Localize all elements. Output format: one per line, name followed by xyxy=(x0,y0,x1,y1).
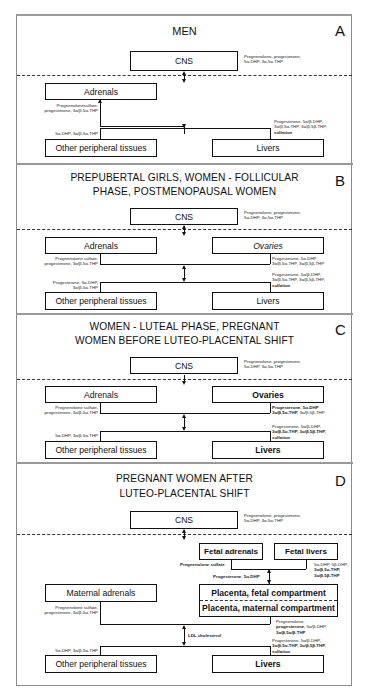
arrow-up-icon xyxy=(182,414,186,418)
arrow-up-icon xyxy=(98,99,102,103)
peripheral-tissues-box: Other peripheral tissues xyxy=(45,655,157,673)
connector xyxy=(270,403,271,413)
panel-a-title: MEN xyxy=(16,25,353,38)
livers-note: Progesterone, 5α/β-DHP,3α/β,5α-THP, 3α/β… xyxy=(274,119,327,135)
livers-note: Progesterone, 5α/β-DHP, 3α/β,5α-THP, 3α/… xyxy=(272,424,326,440)
panel-a-letter: A xyxy=(335,22,355,39)
arrow-up-icon xyxy=(182,71,186,75)
livers-note: Progesterone, 5α/β-DHP, 3α/β,5α-THP, 3α/… xyxy=(272,638,326,654)
placenta-box: Placenta, fetal compartment Placenta, ma… xyxy=(199,584,338,617)
connector xyxy=(100,128,270,129)
connector xyxy=(100,646,270,647)
panel-divider xyxy=(16,313,353,315)
peripheral-note: 5α-DHP, 3α/β,5α-THP xyxy=(36,648,98,653)
panel-b-letter: B xyxy=(335,172,355,189)
fetal-adrenals-note: Pregnenolone sulfate xyxy=(180,562,225,567)
cns-note: Pregnenolone, progesterone,5α-DHP, 3α,5α… xyxy=(244,513,301,524)
connector xyxy=(100,126,184,127)
placenta-maternal-compartment: Placenta, maternal compartment xyxy=(200,603,337,613)
arrow-down-icon xyxy=(182,381,186,385)
cns-note: Pregnenolone, progesterone,5α-DHP, 3α,5α… xyxy=(244,210,301,221)
adrenals-box: Adrenals xyxy=(45,237,157,254)
connector xyxy=(100,431,101,441)
livers-box: Livers xyxy=(212,441,324,459)
connector xyxy=(100,431,270,432)
arrow-up-icon xyxy=(267,569,271,573)
adrenals-note: Pregnenolone sulfate,progesterone, 3α/β,… xyxy=(36,405,98,416)
maternal-adrenals-box: Maternal adrenals xyxy=(45,584,157,602)
adrenals-box: Adrenals xyxy=(45,83,157,100)
cns-box: CNS xyxy=(130,51,238,71)
connector xyxy=(100,403,101,413)
connector xyxy=(270,128,271,139)
panel-b-title-line1: PREPUBERTAL GIRLS, WOMEN - FOLLICULAR xyxy=(16,171,353,184)
peripheral-tissues-box: Other peripheral tissues xyxy=(45,292,157,310)
connector xyxy=(100,602,101,624)
ovaries-note: Progesterone, 5α-DHP3α/β,5α-THP, 3α/β,5β… xyxy=(272,256,324,267)
livers-box: Livers xyxy=(212,139,324,157)
adrenals-box: Adrenals xyxy=(45,386,157,403)
arrow-down-icon xyxy=(182,536,186,540)
arrow-up-icon xyxy=(182,225,186,229)
ovaries-box: Ovaries xyxy=(212,237,324,254)
adrenals-note: Pregnenolonesulfate,progesterone, 3α/β,5… xyxy=(36,103,98,114)
livers-box: Livers xyxy=(212,655,324,673)
ldl-cholesterol-note: LDL cholesterol xyxy=(188,633,221,638)
arrow-up-icon xyxy=(182,529,186,533)
cns-box: CNS xyxy=(130,511,238,529)
arrow-down-icon xyxy=(182,232,186,236)
livers-note: Progesterone, 5α/β-DHP,3α/β,5α-THP, 3α/β… xyxy=(272,272,325,288)
panel-divider xyxy=(16,462,353,464)
arrow-down-icon xyxy=(182,79,186,83)
ovaries-note: Progesterone, 5α-DHP 3α/β,5α-THP, 3α/β,5… xyxy=(272,405,325,416)
connector xyxy=(270,431,271,441)
fetal-to-placenta-note: Progesterone, 5α-DHP xyxy=(213,574,260,579)
panel-b-title-line2: PHASE, POSTMENOPAUSAL WOMEN xyxy=(16,185,353,198)
peripheral-tissues-box: Other peripheral tissues xyxy=(45,441,157,459)
peripheral-note: Progesterone, 5α-DHP,3α/β,5α-THP xyxy=(36,280,98,291)
connector xyxy=(231,560,232,569)
placenta-divider xyxy=(200,600,337,601)
connector xyxy=(306,560,307,569)
connector xyxy=(270,646,271,655)
cns-note: Pregnenolone, progesterone,5α-DHP, 3α,5α… xyxy=(244,359,301,370)
arrow-up-icon xyxy=(182,625,186,629)
peripheral-note: 5α-DHP, 3α/β,5α-THP xyxy=(36,131,98,136)
connector xyxy=(100,646,101,655)
cns-note: Pregnenolone, progesterone,5α-DHP, 3α,5α… xyxy=(244,54,301,65)
connector xyxy=(270,617,271,624)
connector xyxy=(270,254,271,264)
panel-d-title-line2: LUTEO-PLACENTAL SHIFT xyxy=(16,487,353,500)
arrow-up-icon xyxy=(182,265,186,269)
maternal-adrenals-note: Pregnenolone sulfate,progesterone, 3α/β,… xyxy=(36,605,98,616)
connector xyxy=(100,282,101,292)
panel-d-title-line1: PREGNANT WOMEN AFTER xyxy=(16,472,353,485)
fetal-adrenals-box: Fetal adrenals xyxy=(199,543,263,560)
fetal-livers-box: Fetal livers xyxy=(274,543,338,560)
livers-box: Livers xyxy=(212,292,324,310)
panel-c-title-line2: WOMEN BEFORE LUTEO-PLACENTAL SHIFT xyxy=(16,334,353,347)
connector xyxy=(100,282,270,283)
connector xyxy=(270,282,271,292)
peripheral-note: 5α-DHP, 3α/β,5α-THP xyxy=(36,433,98,438)
placenta-note: Pregnenolone, progesterone, 5α/β-DHP, 3α… xyxy=(276,619,327,635)
adrenals-note: Pregnenolone sulfate,progesterone, 3α/β,… xyxy=(36,256,98,267)
connector xyxy=(100,254,101,264)
panel-c-letter: C xyxy=(335,321,355,338)
adrenals-link xyxy=(100,100,101,126)
panel-c-title-line1: WOMEN - LUTEAL PHASE, PREGNANT xyxy=(16,320,353,333)
placenta-fetal-compartment: Placenta, fetal compartment xyxy=(200,588,337,598)
panel-d-letter: D xyxy=(335,472,355,489)
connector xyxy=(100,128,101,139)
fetal-livers-note: 5α-DHP, 5β-DHP, 3α/β,5α-THP, 3α/β,5β-THP xyxy=(314,562,348,578)
peripheral-tissues-box: Other peripheral tissues xyxy=(45,139,157,157)
ovaries-box: Ovaries xyxy=(212,386,324,403)
cns-box: CNS xyxy=(130,208,238,225)
panel-divider xyxy=(16,163,353,165)
cns-box: CNS xyxy=(130,357,238,374)
